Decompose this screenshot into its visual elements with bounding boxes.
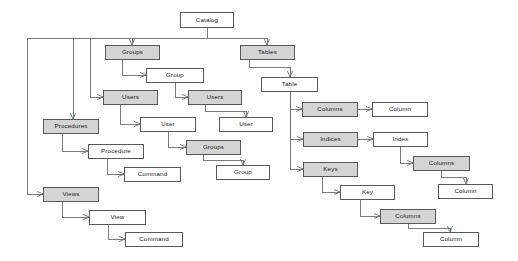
node-user2[interactable]: User	[219, 117, 273, 132]
node-table[interactable]: Table	[261, 77, 318, 92]
node-label: Users	[207, 94, 224, 100]
node-label: Table	[282, 81, 298, 87]
node-users[interactable]: Users	[103, 90, 158, 105]
node-view_command[interactable]: Command	[125, 232, 183, 247]
node-label: Groups	[203, 144, 224, 150]
node-key[interactable]: Key	[340, 185, 395, 200]
node-views[interactable]: Views	[43, 187, 99, 202]
node-label: Key	[362, 189, 373, 195]
node-label: Procedures	[54, 123, 87, 129]
node-label: Command	[138, 171, 168, 177]
edge-index-to-idx_columns	[400, 147, 413, 163]
edge-users2-to-user2	[205, 105, 246, 117]
node-label: Indices	[320, 136, 341, 142]
node-key_columns[interactable]: Columns	[380, 209, 436, 224]
node-proc_command[interactable]: Command	[124, 167, 181, 182]
edge-views-to-view	[62, 202, 89, 217]
edge-key-to-key_columns	[360, 200, 380, 216]
edge-users-to-user	[120, 105, 140, 124]
node-label: Views	[62, 191, 79, 197]
edge-keys-to-key	[322, 177, 340, 192]
edge-bus-to-views	[27, 38, 43, 194]
node-idx_columns[interactable]: Columns	[413, 156, 470, 171]
node-label: Group	[166, 72, 184, 78]
node-group2[interactable]: Group	[216, 165, 270, 180]
edge-bus-to-tables	[207, 38, 267, 45]
node-groups2[interactable]: Groups	[186, 140, 241, 155]
node-label: Tables	[258, 49, 277, 55]
node-label: Column	[454, 188, 476, 194]
node-label: Column	[440, 236, 462, 242]
edge-procedures-to-procedure	[62, 134, 88, 151]
node-user[interactable]: User	[140, 117, 196, 132]
node-columns[interactable]: Columns	[302, 102, 358, 117]
node-label: Procedure	[101, 148, 131, 154]
edge-groups-to-group	[122, 60, 146, 75]
edge-idx_columns-to-idx_column	[441, 171, 466, 184]
edge-procedure-to-proc_command	[107, 159, 124, 174]
node-label: Group	[234, 169, 252, 175]
node-keys[interactable]: Keys	[303, 162, 358, 177]
node-indices[interactable]: Indices	[303, 132, 358, 147]
node-procedure[interactable]: Procedure	[88, 144, 144, 159]
node-label: Users	[122, 94, 139, 100]
node-label: Index	[393, 136, 409, 142]
edge-bus-to-users	[90, 38, 103, 97]
edge-group-to-users2	[175, 83, 188, 97]
node-index[interactable]: Index	[373, 132, 428, 147]
node-label: User	[161, 121, 175, 127]
diagram-canvas: CatalogGroupsGroupUsersUserUsersUserGrou…	[0, 0, 518, 261]
node-users2[interactable]: Users	[188, 90, 242, 105]
node-catalog[interactable]: Catalog	[180, 12, 234, 28]
node-column[interactable]: Column	[372, 102, 428, 117]
node-label: Columns	[395, 213, 420, 219]
node-label: Command	[139, 236, 169, 242]
node-label: View	[111, 214, 125, 220]
node-label: Catalog	[196, 17, 218, 23]
node-tables[interactable]: Tables	[240, 45, 295, 60]
node-label: Column	[389, 106, 411, 112]
edge-tables-to-table	[249, 60, 290, 77]
node-label: Groups	[122, 49, 143, 55]
node-idx_column[interactable]: Column	[438, 184, 493, 199]
node-label: Keys	[323, 166, 337, 172]
node-label: Columns	[429, 160, 454, 166]
edge-table-to-columns	[290, 92, 302, 109]
node-label: User	[239, 121, 253, 127]
node-groups[interactable]: Groups	[105, 45, 160, 60]
node-view[interactable]: View	[89, 210, 146, 225]
edge-user-to-groups2	[168, 132, 186, 147]
node-group[interactable]: Group	[146, 68, 204, 83]
edge-key_columns-to-key_column	[408, 224, 450, 232]
node-key_column[interactable]: Column	[423, 232, 479, 247]
edge-view-to-view_command	[108, 225, 125, 239]
node-label: Columns	[317, 106, 342, 112]
edge-groups2-to-group2	[203, 155, 243, 165]
node-procedures[interactable]: Procedures	[43, 119, 99, 134]
